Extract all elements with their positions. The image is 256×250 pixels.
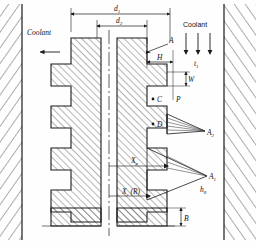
diagram-canvas: Coolant Coolant t1 d1: [0, 0, 256, 250]
d1-label: d1: [114, 4, 120, 14]
component-right-half: [117, 38, 167, 226]
A2-label: A2: [206, 128, 215, 138]
point-D-marker: [152, 123, 155, 126]
right-wall: [224, 4, 256, 240]
coolant-arrow-group: [184, 33, 213, 55]
engineering-cross-section-drawing: Coolant Coolant t1 d1: [0, 0, 256, 250]
h0-label: h0: [200, 185, 207, 195]
A-label: A: [168, 36, 174, 45]
d2-label: d2: [116, 16, 123, 26]
t1-label: t1: [194, 59, 199, 69]
coolant-right-label: Coolant: [183, 21, 207, 28]
W-label: W: [188, 75, 195, 84]
point-C-marker: [152, 98, 155, 101]
A1-label: A1: [208, 172, 216, 182]
Xs-label: Xs (R): [121, 187, 141, 197]
left-wall: [0, 4, 22, 240]
area-A2-wedge: A2: [167, 114, 215, 138]
coolant-flow-right: Coolant t1: [183, 21, 212, 69]
dimension-W: W: [167, 72, 195, 86]
coolant-flow-left: Coolant: [27, 28, 60, 52]
H-label: H: [156, 53, 163, 62]
callout-A: A: [146, 36, 174, 54]
callout-C: C: [152, 95, 163, 104]
component-left-half: [51, 38, 101, 226]
P-label: P: [175, 95, 181, 104]
D-label: D: [156, 120, 163, 129]
coolant-left-label: Coolant: [27, 28, 52, 37]
dimension-B: B: [167, 208, 189, 226]
C-label: C: [157, 95, 163, 104]
B-label: B: [184, 214, 189, 223]
